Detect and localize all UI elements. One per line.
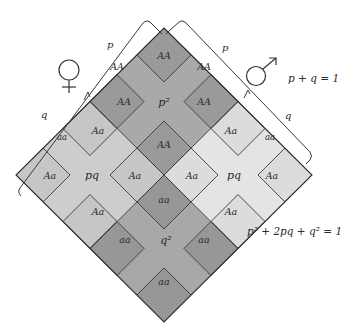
quadrant-label-p-squared: p² — [158, 96, 169, 109]
cell-label: Aa — [224, 125, 238, 136]
female-outer-aa: aa — [57, 132, 67, 142]
cell-label: AA — [116, 96, 131, 107]
male-outer-AA: AA — [196, 61, 211, 72]
cell-label: Aa — [185, 170, 199, 181]
male-q-label: q — [285, 110, 291, 121]
hardy-weinberg-diagram: p q p q AA aa AA aa AA AA AA AA p² Aa Aa… — [0, 0, 349, 325]
cell-label: AA — [156, 50, 171, 61]
cell-label: aa — [119, 234, 131, 245]
cell-label: aa — [158, 276, 170, 287]
cell-label: AA — [156, 139, 171, 150]
female-outer-AA: AA — [109, 61, 124, 72]
cell-label: Aa — [91, 206, 105, 217]
quadrant-label-pq-left: pq — [85, 169, 99, 182]
cell-label: Aa — [91, 125, 105, 136]
cell-label: aa — [158, 194, 170, 205]
male-pq-tick — [244, 90, 250, 98]
quadrant-label-q-squared: q² — [160, 234, 171, 247]
cell-label: Aa — [224, 206, 238, 217]
allele-frequency-equation: p + q = 1 — [288, 72, 339, 84]
cell-label: Aa — [265, 170, 279, 181]
cell-label: Aa — [43, 170, 57, 181]
cell-label: AA — [196, 96, 211, 107]
venus-symbol-icon — [59, 60, 79, 93]
mars-symbol-icon — [247, 58, 277, 86]
cell-label: Aa — [128, 170, 142, 181]
cell-label: aa — [198, 234, 210, 245]
female-q-label: q — [41, 109, 47, 120]
quadrant-label-pq-right: pq — [227, 169, 241, 182]
female-p-label: p — [107, 39, 114, 50]
male-outer-aa: aa — [265, 132, 275, 142]
genotype-frequency-equation: p² + 2pq + q² = 1 — [247, 225, 342, 237]
male-p-label: p — [222, 42, 229, 53]
